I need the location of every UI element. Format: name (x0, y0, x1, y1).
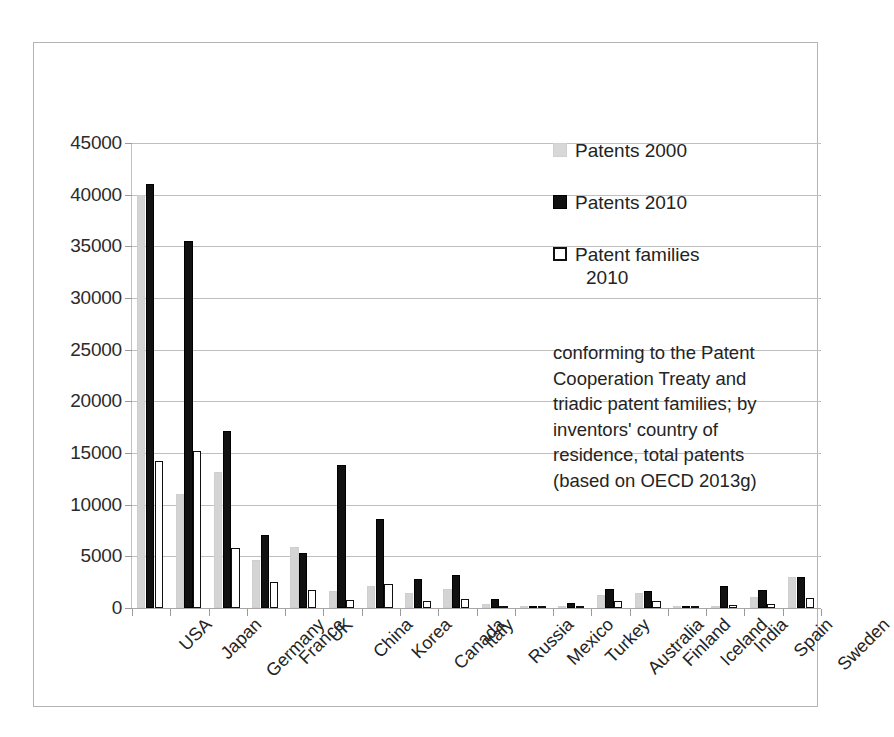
bar-patent-families-2010 (461, 599, 469, 608)
bar-patent-families-2010 (806, 598, 814, 608)
y-tick-label: 10000 (60, 495, 122, 514)
x-tick-mark (553, 609, 554, 616)
bar-group (252, 143, 278, 608)
y-tick-label: 25000 (60, 340, 122, 359)
y-tick-label: 30000 (60, 288, 122, 307)
bar-patents-2000 (443, 589, 451, 608)
legend-item-patents-2010: Patents 2010 (553, 191, 803, 214)
bar-patents-2010 (299, 553, 307, 608)
bar-patents-2010 (720, 586, 728, 608)
bar-patent-families-2010 (614, 601, 622, 608)
y-tick-label: 15000 (60, 443, 122, 462)
x-tick-mark (247, 609, 248, 616)
y-tick-mark (125, 556, 132, 557)
x-tick-mark (821, 609, 822, 616)
bar-patents-2000 (329, 591, 337, 608)
x-tick-mark (170, 609, 171, 616)
x-tick-label-korea: Korea (408, 615, 455, 662)
bar-group (329, 143, 355, 608)
bar-group (405, 143, 431, 608)
x-tick-mark (706, 609, 707, 616)
legend-label-patent-families-line1: Patent families (575, 244, 700, 265)
x-tick-mark (362, 609, 363, 616)
caption-line-4: inventors' country of (553, 417, 811, 443)
caption-line-3: triadic patent families; by (553, 391, 811, 417)
white-square-icon (553, 247, 567, 261)
y-tick-label: 40000 (60, 185, 122, 204)
bar-patent-families-2010 (652, 601, 660, 608)
bar-patent-families-2010 (423, 601, 431, 608)
bar-patents-2010 (414, 579, 422, 608)
y-tick-mark (125, 401, 132, 402)
gray-square-icon (553, 143, 567, 157)
bar-patents-2000 (252, 560, 260, 608)
y-tick-label: 0 (60, 598, 122, 617)
bar-group (482, 143, 508, 608)
chart-outer-frame: 4500040000350003000025000200001500010000… (33, 42, 818, 707)
bar-patent-families-2010 (193, 451, 201, 608)
x-tick-mark (400, 609, 401, 616)
bar-patents-2000 (405, 593, 413, 609)
bar-patents-2000 (750, 597, 758, 608)
x-tick-mark (438, 609, 439, 616)
bar-group (290, 143, 316, 608)
y-tick-mark (125, 453, 132, 454)
y-tick-mark (125, 195, 132, 196)
bar-patents-2010 (491, 599, 499, 608)
caption-line-6: (based on OECD 2013g) (553, 468, 811, 494)
bar-patents-2010 (605, 589, 613, 608)
x-axis-category-labels: USAJapanGermanyFranceUKChinaKoreaCanadaI… (132, 615, 821, 725)
y-axis-line (131, 143, 132, 609)
y-axis-tick-labels: 4500040000350003000025000200001500010000… (54, 43, 122, 737)
x-tick-mark (477, 609, 478, 616)
x-tick-label-japan: Japan (217, 615, 264, 662)
bar-group (137, 143, 163, 608)
bar-patents-2000 (290, 547, 298, 608)
legend-label-patents-2000: Patents 2000 (575, 139, 687, 162)
bar-patent-families-2010 (270, 582, 278, 608)
bar-patent-families-2010 (308, 590, 316, 608)
caption-line-5: residence, total patents (553, 442, 811, 468)
legend-label-patents-2010: Patents 2010 (575, 191, 687, 214)
bar-patents-2010 (452, 575, 460, 608)
bar-patents-2010 (223, 431, 231, 608)
caption-line-2: Cooperation Treaty and (553, 366, 811, 392)
y-tick-mark (125, 350, 132, 351)
y-tick-label: 45000 (60, 133, 122, 152)
y-tick-label: 5000 (60, 546, 122, 565)
bar-patents-2010 (797, 577, 805, 608)
x-tick-mark (630, 609, 631, 616)
bar-patents-2010 (146, 184, 154, 608)
bar-group (176, 143, 202, 608)
y-tick-mark (125, 246, 132, 247)
bar-patents-2010 (184, 241, 192, 608)
bar-patent-families-2010 (384, 584, 392, 608)
bar-patents-2000 (214, 472, 222, 608)
bar-patent-families-2010 (346, 600, 354, 608)
x-tick-mark (668, 609, 669, 616)
chart-caption-text: conforming to the Patent Cooperation Tre… (553, 340, 811, 494)
y-tick-label: 35000 (60, 236, 122, 255)
bar-group (520, 143, 546, 608)
x-tick-mark (591, 609, 592, 616)
caption-line-1: conforming to the Patent (553, 340, 811, 366)
x-tick-mark (515, 609, 516, 616)
bar-patents-2010 (758, 590, 766, 608)
legend-label-patent-families-line2: 2010 (575, 266, 700, 289)
x-tick-mark (209, 609, 210, 616)
x-tick-label-sweden: Sweden (834, 615, 893, 674)
black-square-icon (553, 195, 567, 209)
x-tick-mark (744, 609, 745, 616)
bar-patents-2010 (376, 519, 384, 608)
bar-group (214, 143, 240, 608)
chart-legend: Patents 2000 Patents 2010 Patent familie… (553, 139, 803, 318)
bar-patents-2000 (367, 586, 375, 608)
bar-patents-2010 (261, 535, 269, 608)
x-tick-label-usa: USA (175, 615, 214, 654)
bar-patents-2010 (337, 465, 345, 608)
bar-group (367, 143, 393, 608)
bar-patents-2000 (635, 593, 643, 609)
bar-patent-families-2010 (155, 461, 163, 608)
bar-patents-2000 (788, 577, 796, 608)
